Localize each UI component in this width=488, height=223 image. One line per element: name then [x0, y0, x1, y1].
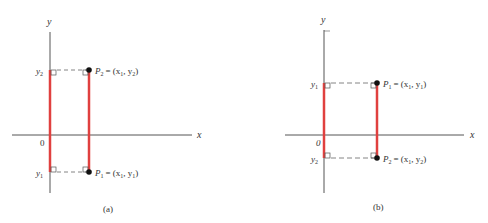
tick-label-lower: y1 — [35, 168, 43, 179]
right-angle-mark — [325, 83, 330, 88]
point-p2 — [86, 67, 92, 73]
point-p1 — [86, 169, 92, 175]
panel-a: x y 0 y2 y1 P2= (x1, y2) P1= (x1, y1) — [12, 16, 202, 214]
caption-b: (b) — [373, 202, 384, 212]
origin-label: 0 — [316, 138, 321, 148]
tick-label-upper: y1 — [310, 79, 318, 90]
point-label-upper: P1= (x1, y1) — [382, 79, 426, 90]
right-angle-mark — [325, 153, 330, 158]
point-p2 — [374, 155, 380, 161]
point-label-lower: P2= (x1, y2) — [382, 154, 426, 165]
tick-label-upper: y2 — [35, 66, 43, 77]
point-p1 — [374, 80, 380, 86]
point-label-lower: P1= (x1, y1) — [94, 168, 138, 179]
panel-b: x y 0 y1 y2 P1= (x1, y1) P2= (x1, y2) (b… — [285, 14, 475, 212]
distance-diagram: x y 0 y2 y1 P2= (x1, y2) P1= (x1, y1) — [0, 0, 488, 223]
right-angle-mark — [51, 70, 56, 75]
caption-a: (a) — [103, 204, 113, 214]
right-angle-mark — [51, 167, 56, 172]
y-axis-label: y — [320, 14, 326, 25]
origin-label: 0 — [40, 138, 45, 148]
y-axis-label: y — [46, 16, 52, 27]
tick-label-lower: y2 — [310, 154, 318, 165]
x-axis-label: x — [469, 129, 475, 140]
x-axis-label: x — [196, 129, 202, 140]
point-label-upper: P2= (x1, y2) — [94, 66, 138, 77]
